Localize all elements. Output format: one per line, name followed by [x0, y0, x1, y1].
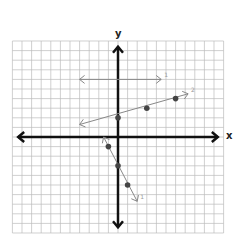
- y-axis-label: y: [115, 28, 122, 39]
- x-axis-label: x: [226, 130, 232, 141]
- line-label: 1: [140, 193, 144, 200]
- line-label: 2: [191, 86, 195, 93]
- data-point: [115, 163, 121, 169]
- data-point: [125, 182, 131, 188]
- data-point: [106, 144, 112, 150]
- data-point: [115, 115, 121, 121]
- axes: [18, 47, 218, 227]
- line-label: 1: [164, 71, 168, 78]
- plotted-line-1: 1: [80, 71, 169, 83]
- data-point: [144, 105, 150, 111]
- data-point: [173, 96, 179, 102]
